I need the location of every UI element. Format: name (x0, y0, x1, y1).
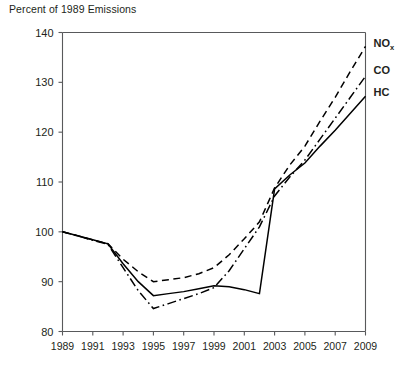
x-tick-label: 2007 (324, 340, 348, 352)
y-tick-label: 140 (35, 27, 53, 39)
data-series-group (63, 46, 366, 308)
plot-area: 8090100110120130140 19891991199319951997… (0, 0, 411, 371)
x-tick-label: 1993 (111, 340, 135, 352)
legend-subscript-nox: x (390, 43, 395, 52)
y-axis-ticks: 8090100110120130140 (35, 27, 62, 338)
x-tick-label: 1997 (172, 340, 196, 352)
y-tick-label: 130 (35, 76, 53, 88)
chart-legend: NOxCOHC (374, 37, 395, 98)
x-tick-label: 1991 (81, 340, 105, 352)
series-line-hc (63, 96, 366, 295)
legend-label-hc: HC (374, 86, 390, 98)
legend-item-hc: HC (374, 86, 390, 98)
legend-label-nox: NO (374, 37, 391, 49)
legend-item-nox: NOx (374, 37, 395, 52)
series-line-nox (63, 46, 366, 281)
y-tick-label: 80 (41, 326, 53, 338)
y-tick-label: 120 (35, 126, 53, 138)
series-line-co (63, 76, 366, 308)
y-tick-label: 90 (41, 276, 53, 288)
x-tick-label: 1995 (142, 340, 166, 352)
x-tick-label: 2005 (293, 340, 317, 352)
x-tick-label: 1999 (202, 340, 226, 352)
x-tick-label: 2009 (354, 340, 378, 352)
y-tick-label: 100 (35, 226, 53, 238)
y-tick-label: 110 (36, 176, 54, 188)
legend-item-co: CO (374, 64, 391, 76)
emissions-line-chart: Percent of 1989 Emissions 80901001101201… (0, 0, 411, 371)
legend-label-co: CO (374, 64, 391, 76)
x-tick-label: 1989 (51, 340, 75, 352)
x-tick-label: 2001 (233, 340, 257, 352)
x-tick-label: 2003 (263, 340, 287, 352)
x-axis-ticks: 1989199119931995199719992001200320052007… (51, 332, 378, 352)
